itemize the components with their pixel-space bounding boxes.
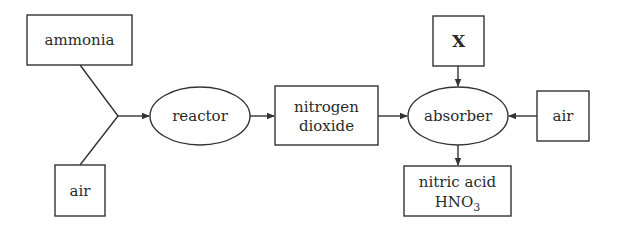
air-left-label: air xyxy=(70,182,92,200)
nitric-acid-node: nitric acid HNO3 xyxy=(404,166,511,216)
absorber-node: absorber xyxy=(408,87,508,145)
ammonia-to-junction-line xyxy=(80,65,118,116)
nitrogen-dioxide-label-line1: nitrogen xyxy=(294,98,359,116)
air-to-junction-line xyxy=(80,116,118,165)
air-right-label: air xyxy=(553,107,575,125)
ammonia-label: ammonia xyxy=(45,31,115,49)
reactor-label: reactor xyxy=(172,107,228,125)
nitrogen-dioxide-node: nitrogen dioxide xyxy=(275,86,378,145)
air-input-right-node: air xyxy=(537,91,589,141)
nitrogen-dioxide-label-line2: dioxide xyxy=(299,117,354,135)
formula-main: HNO xyxy=(435,193,474,211)
air-input-left-node: air xyxy=(55,165,105,216)
nitric-acid-label: nitric acid xyxy=(419,173,497,191)
formula-subscript: 3 xyxy=(473,201,480,214)
ammonia-node: ammonia xyxy=(27,15,132,65)
flow-diagram: ammonia air reactor nitrogen dioxide X a… xyxy=(0,0,620,230)
reactor-node: reactor xyxy=(150,87,250,145)
absorber-label: absorber xyxy=(424,107,493,125)
x-label: X xyxy=(452,31,466,51)
x-node: X xyxy=(433,16,484,66)
